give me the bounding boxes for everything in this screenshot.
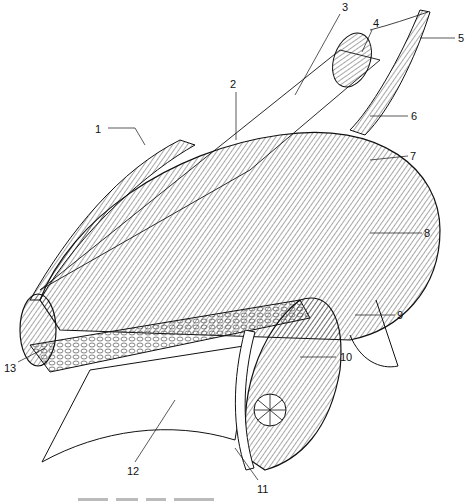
callout-label-3: 3 — [342, 2, 348, 13]
callout-label-13: 13 — [4, 363, 16, 374]
callout-label-8: 8 — [424, 228, 430, 239]
callout-label-9: 9 — [397, 310, 403, 321]
callout-label-4: 4 — [373, 18, 379, 29]
callout-label-11: 11 — [257, 484, 268, 495]
callout-label-2: 2 — [230, 79, 236, 90]
callout-label-6: 6 — [411, 111, 417, 122]
uterus-illustration — [0, 0, 472, 504]
callout-label-10: 10 — [340, 352, 352, 363]
uterine-body — [40, 132, 440, 340]
ovary — [326, 28, 379, 93]
callout-label-7: 7 — [410, 151, 416, 162]
callout-label-5: 5 — [458, 33, 464, 44]
figure-caption-clipped — [78, 498, 228, 504]
cut-end — [20, 294, 56, 366]
callout-label-12: 12 — [127, 466, 139, 477]
callout-label-1: 1 — [95, 124, 101, 135]
